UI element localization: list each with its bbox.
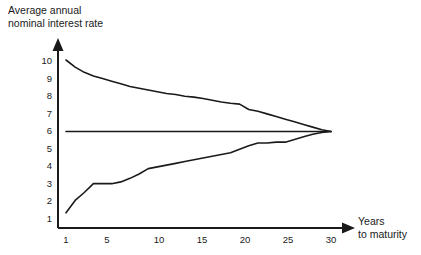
y-tick-label-9: 9: [47, 73, 52, 84]
x-tick-label-30: 30: [326, 234, 337, 245]
y-tick-label-7: 7: [47, 108, 52, 119]
x-axis-arrow-icon: [342, 223, 355, 234]
x-tick-label-1: 1: [63, 234, 68, 245]
x-tick-label-20: 20: [240, 234, 251, 245]
x-tick-label-10: 10: [154, 234, 165, 245]
y-tick-label-6: 6: [47, 125, 52, 136]
x-tick-label-25: 25: [283, 234, 294, 245]
y-tick-label-8: 8: [47, 90, 52, 101]
series-group: [66, 60, 331, 213]
y-tick-label-2: 2: [47, 195, 52, 206]
series-line-upward: [66, 132, 331, 213]
series-line-downward: [66, 60, 331, 132]
y-tick-label-3: 3: [47, 178, 52, 189]
y-tick-labels: 10 9 8 7 6 5 4 3 2 1: [41, 55, 52, 224]
y-tick-label-10: 10: [41, 55, 52, 66]
interest-rate-chart: Average annual nominal interest rate Yea…: [0, 0, 421, 255]
x-tick-labels: 1 5 10 15 20 25 30: [63, 234, 336, 245]
y-axis-arrow-icon: [53, 38, 64, 51]
chart-canvas: 10 9 8 7 6 5 4 3 2 1 1 5 10 15 20 25 30: [0, 0, 421, 255]
y-tick-label-1: 1: [47, 213, 52, 224]
x-tick-label-15: 15: [197, 234, 208, 245]
y-tick-label-4: 4: [47, 160, 52, 171]
x-tick-label-5: 5: [104, 234, 109, 245]
y-tick-label-5: 5: [47, 143, 52, 154]
